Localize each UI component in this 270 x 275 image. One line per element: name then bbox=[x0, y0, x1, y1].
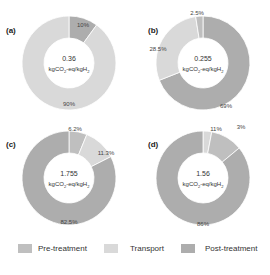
center-unit: kgCO2-eq/kgH2 bbox=[183, 66, 225, 74]
center-value: 1.56 bbox=[196, 170, 210, 177]
legend-item-transport: Transport bbox=[104, 244, 164, 253]
panel-label-c: (c) bbox=[6, 140, 16, 149]
swatch-pre-treatment bbox=[18, 244, 32, 253]
swatch-transport bbox=[104, 244, 118, 253]
panel-label-b: (b) bbox=[148, 26, 159, 35]
center-unit: kgCO2-eq/kgH2 bbox=[183, 181, 225, 189]
slice-percent-label: 82.5% bbox=[60, 219, 78, 225]
slice-percent-label: 86% bbox=[197, 221, 210, 227]
center-value: 1.755 bbox=[60, 170, 78, 177]
legend: Pre-treatment Transport Post-treatment bbox=[0, 244, 270, 260]
donut-panel-b: (b) 69%28.5%2.5%0.255kgCO2-eq/kgH2 bbox=[148, 10, 250, 110]
donut-slice-transport bbox=[22, 16, 116, 110]
slice-percent-label: 6.2% bbox=[68, 126, 82, 132]
legend-label: Post-treatment bbox=[205, 244, 257, 253]
swatch-post-treatment bbox=[181, 244, 195, 253]
slice-percent-label: 2.5% bbox=[190, 10, 204, 16]
center-value: 0.255 bbox=[194, 55, 212, 62]
slice-percent-label: 3% bbox=[237, 124, 246, 130]
legend-label: Transport bbox=[130, 244, 164, 253]
donut-panel-a: (a) 10%90%0.36kgCO2-eq/kgH2 bbox=[6, 16, 116, 110]
legend-label: Pre-treatment bbox=[38, 244, 87, 253]
panel-label-a: (a) bbox=[6, 26, 16, 35]
slice-percent-label: 69% bbox=[220, 103, 233, 109]
legend-item-post-treatment: Post-treatment bbox=[181, 244, 257, 253]
center-unit: kgCO2-eq/kgH2 bbox=[49, 181, 91, 189]
slice-percent-label: 28.5% bbox=[149, 46, 167, 52]
slice-percent-label: 11.3% bbox=[98, 150, 115, 156]
slice-percent-label: 90% bbox=[63, 101, 76, 107]
donut-charts: (a) 10%90%0.36kgCO2-eq/kgH2 (b) 69%28.5%… bbox=[0, 0, 270, 275]
center-unit: kgCO2-eq/kgH2 bbox=[49, 66, 91, 74]
slice-percent-label: 10% bbox=[77, 22, 90, 28]
panel-label-d: (d) bbox=[148, 140, 159, 149]
donut-panel-c: (c) 6.2%11.3%82.5%1.755kgCO2-eq/kgH2 bbox=[6, 126, 116, 225]
center-value: 0.36 bbox=[62, 55, 76, 62]
donut-panel-d: (d) 3%11%86%1.56kgCO2-eq/kgH2 bbox=[148, 124, 250, 227]
legend-item-pre-treatment: Pre-treatment bbox=[18, 244, 87, 253]
slice-percent-label: 11% bbox=[210, 126, 222, 132]
